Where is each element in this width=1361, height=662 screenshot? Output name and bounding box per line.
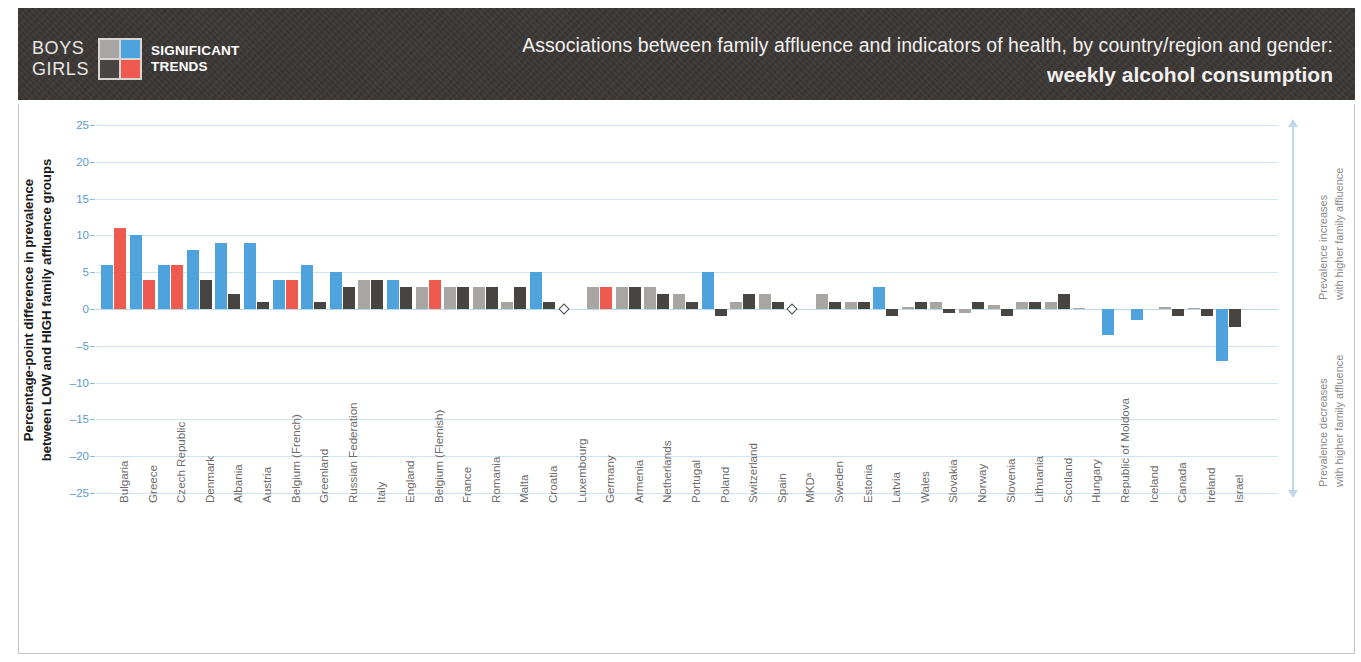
x-axis-label: Austria [260, 467, 273, 503]
y-tick-dash--5 [90, 346, 95, 347]
legend-gender-labels: BOYS GIRLS [32, 38, 89, 80]
y-tick-label--10: –10 [70, 377, 89, 389]
bar-boys [873, 287, 885, 309]
bar-boys [1216, 309, 1228, 361]
y-tick-dash-0 [90, 309, 95, 310]
bar-girls [686, 302, 698, 309]
x-axis-label: Denmark [203, 456, 216, 503]
x-axis-label: Ireland [1204, 468, 1217, 503]
bar-group [1130, 125, 1156, 493]
bar-boys [616, 287, 628, 309]
bar-girls [486, 287, 498, 309]
bar-boys [301, 265, 313, 309]
bar-girls [314, 302, 326, 309]
bar-group [129, 125, 155, 493]
x-axis-label: Norway [975, 464, 988, 503]
x-axis-label: France [460, 467, 473, 503]
legend-girls-label: GIRLS [32, 59, 89, 80]
bar-girls [343, 287, 355, 309]
x-axis-label: Netherlands [660, 440, 673, 503]
bar-group [901, 125, 927, 493]
bar-group [1072, 125, 1098, 493]
bar-girls [257, 302, 269, 309]
bar-boys [673, 294, 685, 309]
bar-group [186, 125, 212, 493]
x-axis-label: Sweden [832, 461, 845, 503]
bar-boys [959, 309, 971, 313]
bar-girls [1201, 309, 1213, 316]
swatch-boys-nonsignificant [100, 40, 119, 58]
bar-boys [1188, 308, 1200, 309]
x-axis-label: Iceland [1147, 466, 1160, 503]
bar-girls [1001, 309, 1013, 316]
y-tick-label--15: –15 [70, 413, 89, 425]
x-axis-label: MKDᵃ [803, 473, 816, 503]
y-tick-label-20: 20 [76, 156, 89, 168]
bar-girls [514, 287, 526, 309]
x-axis-label: Italy [374, 482, 387, 503]
bar-boys [387, 280, 399, 309]
x-axis-label: Romania [489, 457, 502, 503]
bar-boys [759, 294, 771, 309]
title-line-1: Associations between family affluence an… [522, 34, 1333, 57]
y-tick-dash--25 [90, 493, 95, 494]
bar-girls [543, 302, 555, 309]
bar-girls [114, 228, 126, 309]
x-axis-label: Hungary [1089, 459, 1102, 503]
x-axis-label: Greenland [317, 449, 330, 503]
bar-boys [1045, 302, 1057, 309]
legend-significant-line2: TRENDS [151, 59, 239, 75]
zero-value-marker [787, 303, 798, 314]
x-axis-label: Bulgaria [117, 460, 130, 503]
bar-boys [101, 265, 113, 309]
bar-boys [244, 243, 256, 309]
x-axis-label: Slovakia [946, 459, 959, 503]
bar-group [872, 125, 898, 493]
x-axis-label: Luxembourg [575, 439, 588, 503]
y-axis-label: Percentage-point difference in prevalenc… [20, 130, 60, 490]
y-tick-label--25: –25 [70, 487, 89, 499]
x-axis-label: Wales [918, 471, 931, 503]
bar-group [729, 125, 755, 493]
x-axis-label: Czech Republic [174, 422, 187, 503]
y-tick-label-0: 0 [83, 303, 89, 315]
bar-boys [1102, 309, 1114, 335]
bar-boys [158, 265, 170, 309]
x-axis-label: Slovenia [1004, 459, 1017, 503]
bar-girls [772, 302, 784, 309]
x-axis-label: England [403, 460, 416, 503]
x-axis-label: Scotland [1061, 458, 1074, 503]
bar-girls [1229, 309, 1241, 327]
bar-girls [629, 287, 641, 309]
x-axis-label: Switzerland [746, 443, 759, 503]
bar-boys [358, 280, 370, 309]
bar-girls [657, 294, 669, 309]
y-tick-dash--15 [90, 419, 95, 420]
bar-group [701, 125, 727, 493]
bar-boys [187, 250, 199, 309]
bar-boys [902, 307, 914, 309]
title-line-2: weekly alcohol consumption [522, 63, 1333, 87]
bar-group [815, 125, 841, 493]
bar-group [300, 125, 326, 493]
bar-group [214, 125, 240, 493]
legend-boys-label: BOYS [32, 38, 89, 59]
bar-boys [1159, 307, 1171, 309]
bar-boys [1016, 302, 1028, 309]
x-axis-label: Albania [231, 464, 244, 503]
bar-group [987, 125, 1013, 493]
y-tick-label-5: 5 [83, 266, 89, 278]
bar-group [929, 125, 955, 493]
bar-girls [1058, 294, 1070, 309]
x-axis-label: Malta [517, 475, 530, 503]
bar-boys [501, 302, 513, 309]
bar-boys [702, 272, 714, 309]
page-title: Associations between family affluence an… [522, 34, 1333, 87]
bar-boys [330, 272, 342, 309]
swatch-girls-nonsignificant [100, 60, 119, 78]
x-axis-label: Croatia [546, 466, 559, 503]
bar-girls [1029, 302, 1041, 309]
arrow-down-icon [1288, 490, 1298, 498]
y-tick-dash-25 [90, 125, 95, 126]
bar-boys [816, 294, 828, 309]
